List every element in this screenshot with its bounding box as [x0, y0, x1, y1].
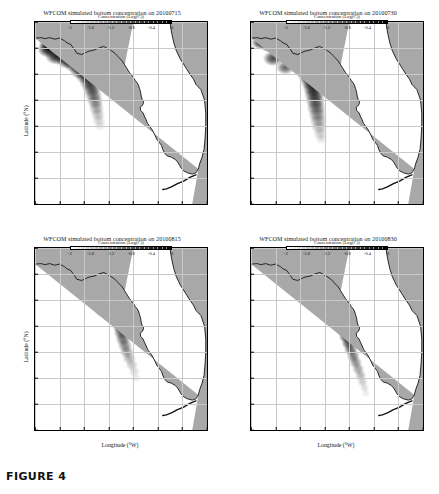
map-canvas: [35, 248, 207, 430]
x-axis-tick-mark: [35, 427, 36, 430]
y-axis-tick-mark: [251, 326, 254, 327]
y-axis-tick-mark: [251, 352, 254, 353]
colorbar-tick-label: -2: [284, 25, 288, 30]
y-axis-tick-mark: [251, 74, 254, 75]
x-axis-tick-mark: [275, 427, 276, 430]
panel-grid: WFCOM simulated bottom concentration on …: [0, 8, 439, 463]
y-axis-tick-mark: [251, 178, 254, 179]
colorbar-tick-label: -1.2: [323, 251, 330, 256]
colorbar-title: Concentration (Log(C)): [70, 240, 172, 245]
x-axis-tick-mark: [158, 427, 159, 430]
y-axis-tick-mark: [35, 378, 38, 379]
colorbar-tick-label: -0.4: [148, 251, 155, 256]
x-axis-tick-mark: [207, 201, 208, 204]
y-axis-tick-mark: [35, 100, 38, 101]
x-axis-label: Longitude (°W): [34, 442, 206, 448]
figure-caption: FIGURE 4: [6, 470, 66, 483]
colorbar-ticks: -2-1.6-1.2-0.8-0.40: [70, 250, 172, 257]
x-axis-tick-mark: [423, 427, 424, 430]
x-axis-tick-mark: [59, 427, 60, 430]
y-axis-tick-mark: [251, 274, 254, 275]
y-axis-tick-mark: [35, 404, 38, 405]
colorbar-tick-label: -0.4: [364, 25, 371, 30]
colorbar-tick-label: 0: [171, 251, 173, 256]
colorbar-tick-label: -0.4: [148, 25, 155, 30]
map-canvas: [35, 22, 207, 204]
y-axis-tick-mark: [35, 152, 38, 153]
x-axis-tick-mark: [300, 201, 301, 204]
colorbar-tick-label: -0.4: [364, 251, 371, 256]
colorbar-tick-label: -0.8: [344, 251, 351, 256]
colorbar-title: Concentration (Log(C)): [286, 14, 388, 19]
x-axis-tick-mark: [182, 201, 183, 204]
colorbar-tick-label: -1.2: [323, 25, 330, 30]
map-plot-area: 31302928272625248786858483828180: [34, 247, 208, 431]
x-axis-tick-mark: [207, 427, 208, 430]
y-axis-tick-mark: [251, 430, 254, 431]
y-axis-tick-mark: [35, 248, 38, 249]
y-axis-tick-mark: [35, 326, 38, 327]
x-axis-tick-mark: [84, 201, 85, 204]
panel-20100815: WFCOM simulated bottom concentration on …: [6, 236, 218, 458]
x-axis-tick-mark: [108, 427, 109, 430]
colorbar: Concentration (Log(C))-2-1.6-1.2-0.8-0.4…: [70, 14, 172, 31]
x-axis-tick-mark: [398, 201, 399, 204]
colorbar-tick-label: -1.2: [107, 251, 114, 256]
y-axis-tick-mark: [35, 178, 38, 179]
y-axis-tick-mark: [35, 48, 38, 49]
x-axis-tick-mark: [300, 427, 301, 430]
figure-sheet: WFCOM simulated bottom concentration on …: [0, 0, 439, 494]
colorbar: Concentration (Log(C))-2-1.6-1.2-0.8-0.4…: [70, 240, 172, 257]
colorbar-tick-label: -1.6: [87, 25, 94, 30]
x-axis-tick-mark: [35, 201, 36, 204]
colorbar: Concentration (Log(C))-2-1.6-1.2-0.8-0.4…: [286, 14, 388, 31]
colorbar-ticks: -2-1.6-1.2-0.8-0.40: [286, 24, 388, 31]
x-axis-label: Longitude (°W): [250, 442, 422, 448]
colorbar-title: Concentration (Log(C)): [286, 240, 388, 245]
x-axis-tick-mark: [251, 427, 252, 430]
x-axis-tick-mark: [349, 201, 350, 204]
colorbar-tick-label: -0.8: [128, 25, 135, 30]
colorbar-ticks: -2-1.6-1.2-0.8-0.40: [286, 250, 388, 257]
colorbar-tick-label: -1.6: [303, 251, 310, 256]
y-axis-tick-mark: [251, 300, 254, 301]
y-axis-tick-mark: [35, 22, 38, 23]
y-axis-tick-mark: [251, 100, 254, 101]
colorbar-tick-label: -1.2: [107, 25, 114, 30]
colorbar-tick-label: -0.8: [128, 251, 135, 256]
y-axis-tick-mark: [35, 352, 38, 353]
y-axis-tick-mark: [251, 204, 254, 205]
x-axis-tick-mark: [324, 427, 325, 430]
y-axis-label: Latitude (°N): [23, 331, 29, 362]
colorbar-tick-label: -2: [284, 251, 288, 256]
colorbar-tick-label: -2: [68, 251, 72, 256]
x-axis-tick-mark: [133, 427, 134, 430]
y-axis-tick-mark: [251, 126, 254, 127]
colorbar-tick-label: -0.8: [344, 25, 351, 30]
y-axis-tick-mark: [251, 248, 254, 249]
colorbar-ticks: -2-1.6-1.2-0.8-0.40: [70, 24, 172, 31]
map-plot-area: 31302928272625248786858483828180: [34, 21, 208, 205]
x-axis-tick-mark: [374, 427, 375, 430]
y-axis-tick-mark: [35, 74, 38, 75]
y-axis-tick-mark: [251, 378, 254, 379]
x-axis-tick-mark: [324, 201, 325, 204]
panel-20100730: WFCOM simulated bottom concentration on …: [222, 10, 434, 232]
colorbar-title: Concentration (Log(C)): [70, 14, 172, 19]
x-axis-tick-mark: [349, 427, 350, 430]
map-canvas: [251, 248, 423, 430]
map-plot-area: 31302928272625248786858483828180: [250, 247, 424, 431]
x-axis-tick-mark: [398, 427, 399, 430]
y-axis-tick-mark: [251, 48, 254, 49]
y-axis-tick-mark: [251, 22, 254, 23]
x-axis-tick-mark: [59, 201, 60, 204]
y-axis-tick-mark: [35, 274, 38, 275]
colorbar-tick-label: 0: [387, 251, 389, 256]
x-axis-tick-mark: [275, 201, 276, 204]
colorbar-tick-label: -1.6: [303, 25, 310, 30]
panel-20100830: WFCOM simulated bottom concentration on …: [222, 236, 434, 458]
x-axis-tick-mark: [251, 201, 252, 204]
y-axis-tick-mark: [251, 404, 254, 405]
y-axis-tick-mark: [35, 204, 38, 205]
x-axis-tick-mark: [84, 427, 85, 430]
